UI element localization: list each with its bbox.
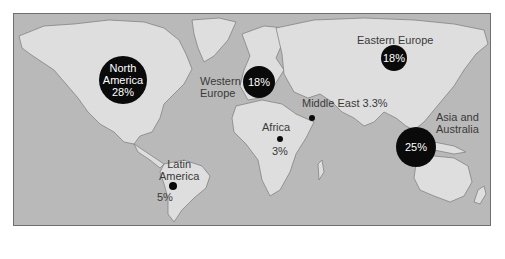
asia-australia-bubble: 25%: [396, 127, 436, 167]
land-new-zealand: [474, 186, 486, 204]
north-america-value: 28%: [112, 86, 134, 98]
latin-america-label-line1: Latin: [159, 158, 199, 170]
north-america-bubble: North America 28%: [99, 56, 147, 104]
western-europe-value: 18%: [248, 76, 270, 88]
middle-east-dot: [309, 115, 315, 121]
north-america-label-line2: America: [103, 74, 143, 86]
africa-dot: [277, 136, 283, 142]
africa-label: Africa: [262, 121, 290, 133]
asia-australia-label: Asia and Australia: [436, 111, 479, 135]
asia-australia-label-line1: Asia and: [436, 111, 479, 123]
eastern-europe-value: 18%: [383, 52, 405, 64]
western-europe-label: Western Europe: [200, 75, 241, 99]
western-europe-label-line1: Western: [200, 75, 241, 87]
land-madagascar: [318, 160, 324, 180]
latin-america-label-line2: America: [159, 170, 199, 182]
middle-east-label: Middle East 3.3%: [302, 97, 388, 109]
africa-value: 3%: [272, 145, 288, 157]
latin-america-value: 5%: [157, 191, 173, 203]
asia-australia-label-line2: Australia: [436, 123, 479, 135]
western-europe-bubble: 18%: [243, 66, 275, 98]
asia-australia-value: 25%: [405, 141, 427, 153]
land-greenland: [192, 18, 236, 62]
western-europe-label-line2: Europe: [200, 87, 241, 99]
latin-america-label: Latin America: [159, 158, 199, 182]
latin-america-dot: [169, 182, 177, 190]
eastern-europe-bubble: 18%: [381, 45, 407, 71]
north-america-label-line1: North: [110, 62, 137, 74]
